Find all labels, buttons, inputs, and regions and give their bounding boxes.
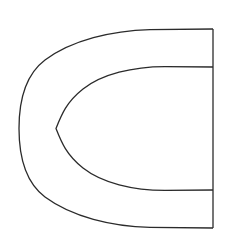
drawing-canvas: C-shaped open annulus outline bbox=[0, 0, 230, 249]
c-shape-figure: C-shaped open annulus outline bbox=[0, 0, 230, 249]
canvas-background bbox=[0, 0, 230, 249]
